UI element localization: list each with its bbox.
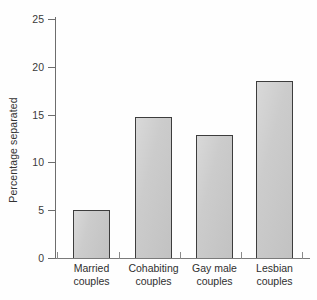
y-axis-tick-label: 5 [0, 204, 44, 216]
x-axis-category-line: Cohabiting [120, 262, 188, 275]
y-axis-tick [48, 162, 55, 163]
y-axis-line [55, 17, 56, 259]
x-axis-category-line: Gay male [181, 262, 249, 275]
y-axis-tick [48, 115, 55, 116]
bar [196, 135, 233, 258]
y-axis-tick [48, 258, 55, 259]
bar [73, 210, 110, 258]
bar-sheen [136, 118, 171, 258]
x-axis-category-line: couples [241, 275, 309, 288]
y-axis-tick-label: 10 [0, 156, 44, 168]
x-axis-category-label: Cohabitingcouples [120, 262, 188, 287]
bar-sheen [74, 211, 109, 258]
x-axis-tick [241, 252, 242, 259]
x-axis-tick [180, 252, 181, 259]
x-axis-category-line: Married [58, 262, 126, 275]
bar-sheen [257, 82, 292, 258]
bar-chart-figure: Percentage separated 0510152025 Marriedc… [0, 0, 317, 300]
x-axis-tick [57, 252, 58, 259]
y-axis-tick-label: 20 [0, 61, 44, 73]
y-axis-tick-label: 0 [0, 252, 44, 264]
x-axis-category-line: Lesbian [241, 262, 309, 275]
x-axis-tick [302, 252, 303, 259]
x-axis-category-label: Marriedcouples [58, 262, 126, 287]
y-axis-tick [48, 210, 55, 211]
y-axis-tick [48, 19, 55, 20]
x-axis-line [55, 258, 310, 259]
bar [135, 117, 172, 258]
y-axis-tick-label: 15 [0, 109, 44, 121]
x-axis-tick [119, 252, 120, 259]
y-axis-tick-label: 25 [0, 13, 44, 25]
y-axis-tick [48, 67, 55, 68]
x-axis-category-line: couples [120, 275, 188, 288]
bar [256, 81, 293, 258]
x-axis-category-line: couples [181, 275, 249, 288]
x-axis-category-line: couples [58, 275, 126, 288]
x-axis-category-label: Gay malecouples [181, 262, 249, 287]
bar-sheen [197, 136, 232, 258]
x-axis-category-label: Lesbiancouples [241, 262, 309, 287]
